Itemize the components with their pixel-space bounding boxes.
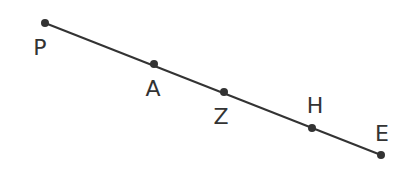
- line-segment-pe: [45, 23, 381, 155]
- label-p: P: [33, 35, 46, 60]
- point-z: [220, 88, 228, 96]
- line-diagram: P A Z H E: [0, 0, 414, 176]
- label-a: A: [145, 76, 160, 101]
- label-z: Z: [213, 104, 228, 129]
- point-a: [150, 60, 158, 68]
- label-h: H: [307, 93, 324, 118]
- point-p: [41, 19, 49, 27]
- point-h: [308, 124, 316, 132]
- label-e: E: [375, 121, 389, 146]
- point-e: [377, 151, 385, 159]
